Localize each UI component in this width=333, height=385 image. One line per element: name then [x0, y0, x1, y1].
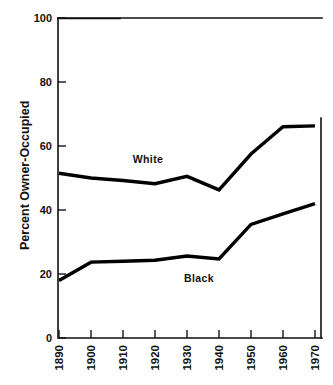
y-tick-label-60: 60: [40, 140, 52, 152]
y-tick-label-100: 100: [34, 12, 52, 24]
y-tick-label-80: 80: [40, 76, 52, 88]
x-tick-label-1950: 1950: [245, 345, 257, 371]
x-tick-label-1900: 1900: [85, 345, 97, 371]
y-tick-labels: 100 80 60 40 20 0: [34, 12, 52, 344]
x-tick-label-1890: 1890: [53, 345, 65, 371]
y-tick-label-0: 0: [46, 332, 52, 344]
x-tick-label-1930: 1930: [181, 345, 193, 371]
y-tick-marks: [58, 18, 66, 338]
y-tick-label-20: 20: [40, 268, 52, 280]
x-tick-marks: [59, 330, 315, 338]
x-tick-label-1920: 1920: [149, 345, 161, 371]
x-tick-label-1910: 1910: [117, 345, 129, 371]
series-line-white: [59, 126, 315, 190]
series-line-black: [59, 204, 315, 281]
line-chart: 100 80 60 40 20 0 Percent Owner-Occupied…: [0, 0, 333, 385]
y-axis-title: Percent Owner-Occupied: [18, 101, 32, 250]
x-tick-label-1960: 1960: [277, 345, 289, 371]
chart-container: 100 80 60 40 20 0 Percent Owner-Occupied…: [0, 0, 333, 385]
x-tick-label-1940: 1940: [213, 345, 225, 371]
x-tick-label-1970: 1970: [309, 345, 321, 371]
black-series-label: Black: [184, 272, 214, 284]
x-tick-labels: 1890 1900 1910 1920 1930 1940 1950 1960 …: [53, 345, 321, 371]
y-tick-label-40: 40: [40, 204, 52, 216]
white-series-label: White: [133, 153, 164, 165]
